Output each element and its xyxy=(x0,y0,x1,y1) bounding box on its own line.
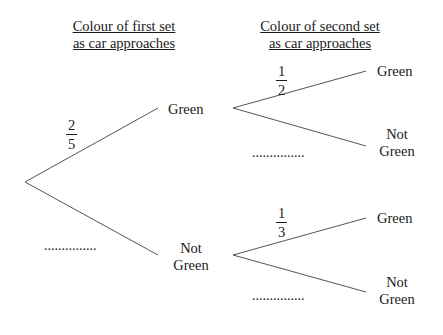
label-not: Not xyxy=(168,240,214,257)
fraction-denominator: 2 xyxy=(278,81,285,97)
fraction-numerator: 1 xyxy=(276,206,287,223)
blank-g-not-green[interactable]: ............... xyxy=(252,145,305,161)
fraction-denominator: 5 xyxy=(68,135,75,151)
heading-second-line2: as car approaches xyxy=(250,35,390,52)
fraction-g-green: 1 2 xyxy=(276,64,287,97)
label-ng-not-green: Not Green xyxy=(374,274,420,308)
label-not: Not xyxy=(374,274,420,291)
heading-second-line1: Colour of second set xyxy=(250,18,390,35)
label-first-green: Green xyxy=(168,101,203,118)
heading-first-line1: Colour of first set xyxy=(64,18,184,35)
branch-first-green xyxy=(25,108,158,182)
blank-first-not-green[interactable]: ............... xyxy=(44,238,97,254)
blank-ng-not-green[interactable]: ............... xyxy=(252,288,305,304)
heading-first-line2: as car approaches xyxy=(64,35,184,52)
heading-second-set: Colour of second set as car approaches xyxy=(250,18,390,52)
label-green: Green xyxy=(168,257,214,274)
label-g-not-green: Not Green xyxy=(374,126,420,160)
label-g-green: Green xyxy=(377,63,412,80)
branch-g-not-green xyxy=(233,108,366,146)
branch-g-green xyxy=(233,71,366,108)
fraction-denominator: 3 xyxy=(278,223,285,239)
label-green: Green xyxy=(374,143,420,160)
label-green: Green xyxy=(374,291,420,308)
branch-ng-not-green xyxy=(233,255,366,292)
heading-first-set: Colour of first set as car approaches xyxy=(64,18,184,52)
label-not: Not xyxy=(374,126,420,143)
label-first-not-green: Not Green xyxy=(168,240,214,274)
label-ng-green: Green xyxy=(377,210,412,227)
fraction-numerator: 2 xyxy=(66,118,77,135)
branch-ng-green xyxy=(233,218,366,255)
fraction-numerator: 1 xyxy=(276,64,287,81)
fraction-ng-green: 1 3 xyxy=(276,206,287,239)
fraction-first-green: 2 5 xyxy=(66,118,77,151)
